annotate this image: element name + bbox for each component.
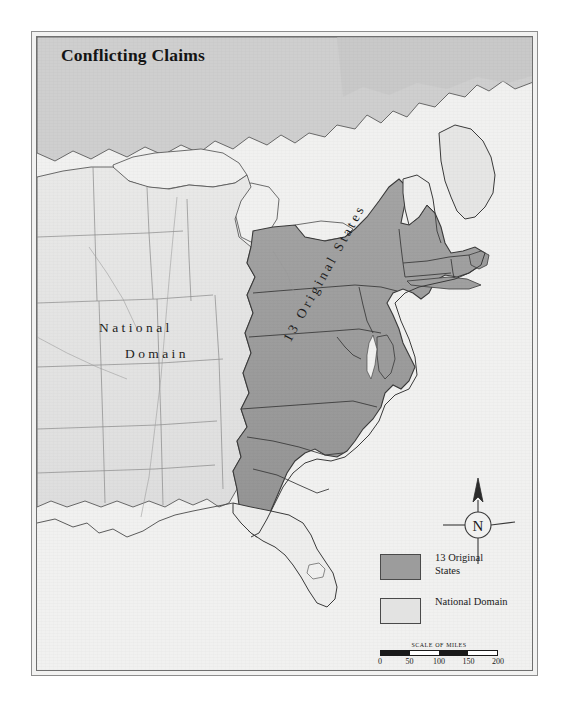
map-frame-outer: Conflicting Claims National Domain 13 Or… <box>31 31 538 676</box>
scale-caption: Scale of Miles <box>380 640 498 649</box>
scale-tick: 100 <box>433 657 445 666</box>
page-canvas: Conflicting Claims National Domain 13 Or… <box>0 0 565 706</box>
map-title: Conflicting Claims <box>61 45 205 66</box>
scale-segment <box>381 651 410 655</box>
legend-label-original-states: 13 Original States <box>435 552 483 577</box>
scale-segment <box>468 651 497 655</box>
legend-item-national-domain: National Domain <box>380 596 530 624</box>
legend-label-original-states-line2: States <box>435 565 483 578</box>
scale-tick: 200 <box>492 657 504 666</box>
legend-item-original-states: 13 Original States <box>380 552 530 580</box>
compass-north-label: N <box>473 518 484 534</box>
legend-swatch-national-domain <box>380 598 421 624</box>
map-frame-inner: Conflicting Claims National Domain 13 Or… <box>36 36 533 671</box>
legend-swatch-original-states <box>380 554 421 580</box>
scale-tick: 0 <box>378 657 382 666</box>
scale-tick: 150 <box>463 657 475 666</box>
scale-bar-block: Scale of Miles 0 50 100 150 200 <box>380 640 498 668</box>
legend-label-national-domain: National Domain <box>435 596 508 609</box>
legend-label-national-domain-line1: National Domain <box>435 596 508 609</box>
legend-label-original-states-line1: 13 Original <box>435 552 483 565</box>
map-legend: 13 Original States National Domain Scale… <box>380 552 530 668</box>
scale-segment <box>439 651 468 655</box>
scale-segment <box>410 651 439 655</box>
scale-tick: 50 <box>406 657 414 666</box>
scale-ticks: 0 50 100 150 200 <box>380 656 498 668</box>
